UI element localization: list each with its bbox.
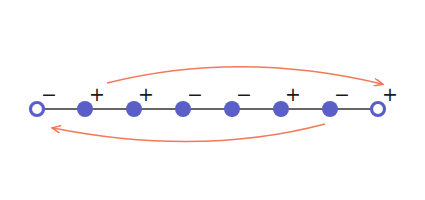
plus-sign-label: + [382, 83, 398, 105]
minus-sign-label: − [236, 83, 252, 105]
chain-diagram: −++−−+−+ [0, 0, 425, 200]
minus-sign-label: − [187, 83, 203, 105]
bottom-arrow [53, 124, 325, 142]
plus-sign-label: + [285, 83, 301, 105]
plus-sign-label: + [138, 83, 154, 105]
top-arrow [107, 67, 382, 84]
minus-sign-label: − [334, 83, 350, 105]
plus-sign-label: + [89, 83, 105, 105]
minus-sign-label: − [41, 83, 57, 105]
